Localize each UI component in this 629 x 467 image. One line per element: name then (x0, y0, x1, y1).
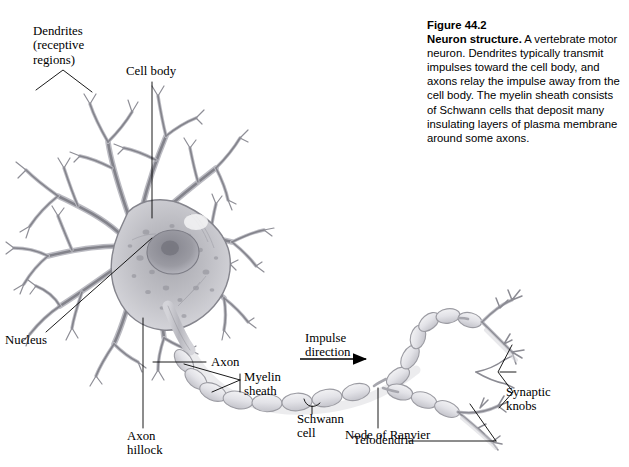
figure-title: Neuron structure. (427, 33, 522, 45)
label-dendrites: Dendrites (receptive regions) (33, 24, 84, 67)
figure-number: Figure 44.2 (427, 18, 623, 32)
label-myelin-sheath: Myelin sheath (244, 370, 281, 399)
figure-caption: Figure 44.2Neuron structure. A vertebrat… (427, 18, 623, 145)
figure-body-text: A vertebrate motor neuron. Dendrites typ… (427, 33, 620, 144)
label-axon: Axon (211, 355, 239, 369)
label-axon-hillock: Axon hillock (127, 429, 163, 458)
label-impulse-direction: Impulse direction (305, 331, 350, 360)
label-cell-body: Cell body (126, 64, 176, 78)
nucleolus-shape (161, 241, 179, 256)
label-schwann-cell: Schwann cell (297, 412, 344, 441)
figure-page: Figure 44.2Neuron structure. A vertebrat… (0, 0, 629, 467)
label-telodendria: Telodendria (353, 433, 414, 447)
label-nucleus: Nucleus (5, 333, 47, 347)
leader-dendrites (36, 70, 92, 92)
label-synaptic-knobs: Synaptic knobs (506, 385, 551, 414)
